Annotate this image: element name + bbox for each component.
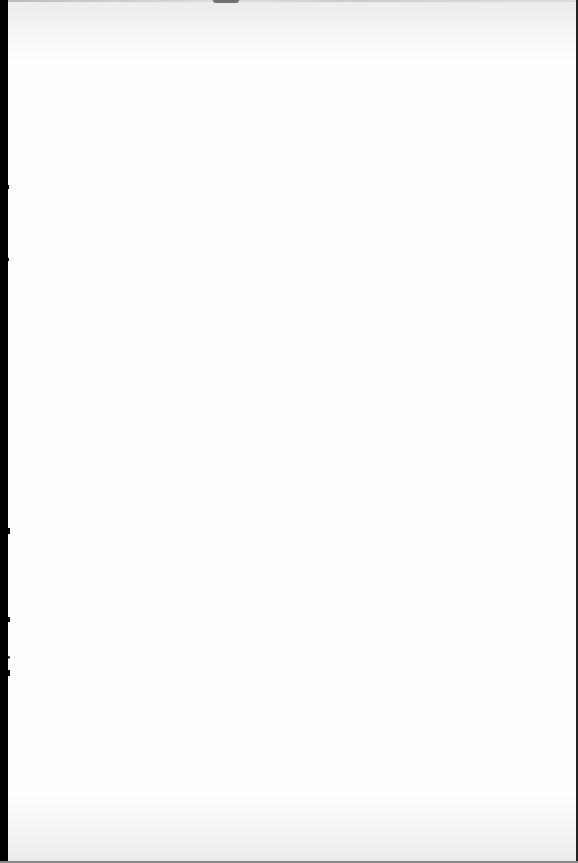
edge-artifact [8, 528, 10, 534]
edge-artifact [8, 670, 10, 676]
edge-artifact [4, 656, 10, 660]
scan-smudge [213, 0, 239, 3]
edge-artifact [7, 258, 9, 261]
page-body [40, 40, 538, 823]
edge-artifact [8, 617, 10, 622]
scanned-page [0, 0, 578, 863]
edge-artifact [7, 185, 9, 189]
binding-edge [0, 0, 8, 863]
page-top-edge [0, 0, 578, 2]
